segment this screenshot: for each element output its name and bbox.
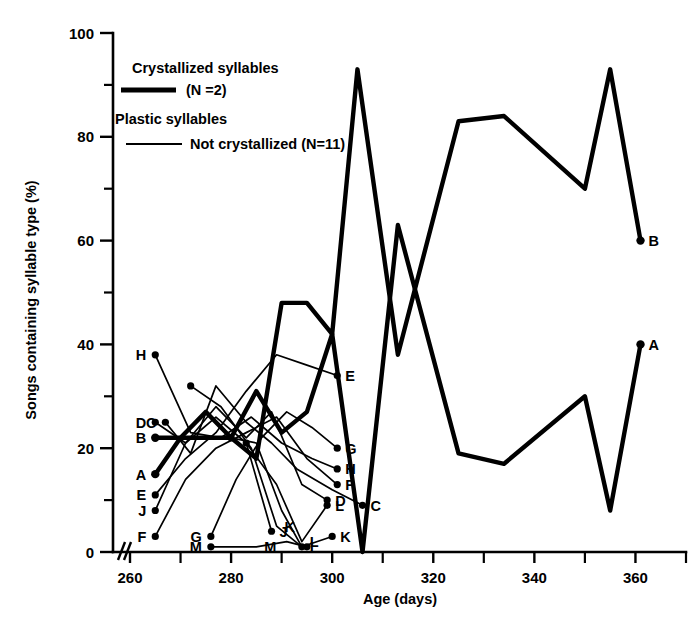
legend-entry-1-sub: Not crystallized (N=11) bbox=[190, 136, 345, 152]
point-label-right-K-10: K bbox=[285, 519, 296, 535]
point-label-right-M-8: M bbox=[264, 539, 276, 555]
y-axis-title: Songs containing syllable type (%) bbox=[23, 180, 39, 419]
y-tick-label-20: 20 bbox=[77, 440, 94, 457]
legend-entry-0-title: Crystallized syllables bbox=[132, 60, 279, 76]
point-label-right-H-2: H bbox=[345, 461, 355, 477]
chart-canvas: 020406080100260280300320340360 HDCBAEJFG… bbox=[0, 0, 696, 634]
point-label-right-L-5: L bbox=[335, 498, 344, 514]
point-label-right-E-0: E bbox=[345, 368, 355, 384]
x-tick-label-320: 320 bbox=[421, 569, 446, 586]
marker-start-L bbox=[243, 439, 250, 446]
point-label-left-M-9: M bbox=[190, 539, 202, 555]
series-line-M bbox=[211, 542, 307, 547]
marker-end-A bbox=[636, 340, 644, 348]
point-label-right-K-7: K bbox=[340, 529, 351, 545]
y-tick-label-80: 80 bbox=[77, 128, 94, 145]
legend: Crystallized syllables (N =2) Plastic sy… bbox=[115, 60, 345, 152]
figure-container: 020406080100260280300320340360 HDCBAEJFG… bbox=[0, 0, 696, 634]
point-label-left-D-1: D bbox=[136, 415, 146, 431]
marker-start-F bbox=[152, 533, 159, 540]
marker-start-E bbox=[152, 491, 159, 498]
marker-start-M bbox=[207, 543, 214, 550]
marker-end-C bbox=[359, 502, 366, 509]
y-tick-label-60: 60 bbox=[77, 232, 94, 249]
y-tick-label-0: 0 bbox=[86, 544, 94, 561]
legend-entry-1-title: Plastic syllables bbox=[115, 111, 227, 127]
marker-end-J bbox=[268, 528, 275, 535]
point-label-right-C-6: C bbox=[371, 498, 382, 514]
marker-start-H bbox=[152, 351, 159, 358]
marker-start-K bbox=[187, 382, 194, 389]
point-label-left-H-0: H bbox=[136, 347, 146, 363]
point-label-left-E-5: E bbox=[137, 487, 147, 503]
marker-end-E bbox=[334, 372, 341, 379]
x-axis-title: Age (days) bbox=[363, 591, 437, 607]
point-label-right-G-1: G bbox=[345, 441, 356, 457]
point-labels: HDCBAEJFGMEGHFDLCKMJKILBA bbox=[136, 233, 660, 555]
x-tick-label-360: 360 bbox=[623, 569, 648, 586]
series-line-K bbox=[191, 386, 333, 547]
marker-start-C bbox=[162, 419, 169, 426]
marker-start-G bbox=[207, 533, 214, 540]
point-label-left-A-4: A bbox=[136, 467, 147, 483]
marker-end-B bbox=[636, 236, 644, 244]
marker-end-G bbox=[334, 445, 341, 452]
point-label-right-B-13: B bbox=[649, 233, 659, 249]
y-tick-label-100: 100 bbox=[69, 25, 94, 42]
point-label-left-C-2: C bbox=[146, 415, 157, 431]
x-tick-label-300: 300 bbox=[320, 569, 345, 586]
point-label-left-B-3: B bbox=[136, 430, 146, 446]
marker-end-L bbox=[324, 502, 331, 509]
marker-end-F bbox=[334, 481, 341, 488]
point-label-left-J-6: J bbox=[138, 503, 146, 519]
marker-start-A bbox=[151, 470, 159, 478]
marker-end-H bbox=[334, 465, 341, 472]
marker-start-I bbox=[227, 434, 234, 441]
point-label-right-L-12: L bbox=[310, 534, 319, 550]
y-tick-label-40: 40 bbox=[77, 336, 94, 353]
marker-end-K bbox=[329, 533, 336, 540]
marker-start-B bbox=[151, 434, 159, 442]
legend-entry-0-sub: (N =2) bbox=[186, 82, 227, 98]
series-line-E bbox=[155, 355, 337, 495]
x-tick-label-340: 340 bbox=[522, 569, 547, 586]
point-label-left-F-7: F bbox=[137, 529, 146, 545]
series-line-A bbox=[155, 225, 640, 552]
x-tick-label-260: 260 bbox=[117, 569, 142, 586]
x-tick-label-280: 280 bbox=[219, 569, 244, 586]
point-label-right-F-3: F bbox=[345, 477, 354, 493]
point-label-right-A-14: A bbox=[649, 337, 660, 353]
marker-start-J bbox=[152, 507, 159, 514]
